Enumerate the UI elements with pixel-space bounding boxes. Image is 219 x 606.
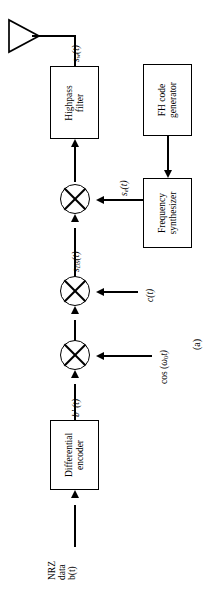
block-fh-code-generator-label: FH code generator xyxy=(157,82,178,118)
line-mixer-to-highpass xyxy=(74,147,76,182)
signal-carrier-post: t) xyxy=(159,350,169,356)
arrow-to-encoder-icon xyxy=(71,490,79,498)
signal-carrier-omega: ω xyxy=(159,359,169,366)
arrow-to-mixer1-icon xyxy=(96,196,104,204)
block-highpass-filter-label: Highpass filter xyxy=(64,85,85,120)
block-highpass-filter-line2: filter xyxy=(75,93,85,111)
signal-ds-sub: DS xyxy=(74,260,81,268)
line-carrier-to-mixer3 xyxy=(104,355,152,357)
block-differential-encoder: Differential encoder xyxy=(50,420,99,490)
signal-fh-arg: (t) xyxy=(119,180,129,189)
block-frequency-synthesizer-label: Frequency synthesizer xyxy=(157,192,178,235)
arrow-to-mixer1-vert-icon xyxy=(71,214,79,222)
signal-label-encoded-data: b' (t) xyxy=(72,399,82,417)
mixer-icon-carrier xyxy=(60,340,90,370)
line-input-to-encoder xyxy=(74,505,76,547)
arrow-to-mixer2-icon xyxy=(71,306,79,314)
arrow-carrier-to-mixer3-icon xyxy=(96,352,104,360)
line-fhcode-to-synth xyxy=(167,136,169,172)
signal-ds-arg: (t) xyxy=(71,251,81,260)
signal-output-arg: (t) xyxy=(71,45,81,54)
block-frequency-synthesizer-line1: Frequency xyxy=(157,193,167,233)
signal-encoded-arg: (t) xyxy=(71,399,81,408)
signal-encoded-base: b' xyxy=(71,410,81,417)
mixer-icon-ds xyxy=(60,276,90,306)
signal-carrier-pre: cos ( xyxy=(159,366,169,384)
block-differential-encoder-line2: encoder xyxy=(75,440,85,470)
signal-label-ds: sDS(t) xyxy=(72,251,82,272)
figure-caption: (a) xyxy=(192,339,203,350)
signal-fh-sub: e xyxy=(122,189,129,192)
arrow-to-mixer3-icon xyxy=(71,370,79,378)
signal-pn-base: c xyxy=(145,298,155,302)
signal-label-pn-code: c(t) xyxy=(146,289,156,302)
signal-pn-arg: (t) xyxy=(145,289,155,298)
block-fh-code-generator: FH code generator xyxy=(143,64,192,136)
figure-canvas: sw(t) Highpass filter FH code generator … xyxy=(0,0,219,606)
block-fh-code-generator-line2: generator xyxy=(168,82,178,118)
antenna-feed-line xyxy=(32,35,75,37)
block-fh-code-generator-line1: FH code xyxy=(157,84,167,116)
signal-label-carrier: cos (ω0t) xyxy=(160,350,170,384)
signal-ds-base: s xyxy=(71,268,81,272)
signal-output-base: s xyxy=(71,58,81,62)
arrow-to-highpass-icon xyxy=(71,139,79,147)
block-frequency-synthesizer: Frequency synthesizer xyxy=(143,178,192,248)
input-label: NRZ data b(t) xyxy=(48,561,78,580)
block-frequency-synthesizer-line2: synthesizer xyxy=(168,192,178,235)
block-differential-encoder-label: Differential encoder xyxy=(64,433,85,477)
signal-label-fh-carrier: se(t) xyxy=(120,180,130,196)
arrow-to-synth-icon xyxy=(164,170,172,178)
signal-fh-base: s xyxy=(119,192,129,196)
line-synth-to-mixer1 xyxy=(104,199,144,201)
arrow-code-to-mixer2-icon xyxy=(96,288,104,296)
signal-label-output: sw(t) xyxy=(72,45,82,62)
block-differential-encoder-line1: Differential xyxy=(64,433,74,477)
line-code-to-mixer2 xyxy=(104,291,138,293)
signal-output-sub: w xyxy=(74,54,81,58)
mixer-icon-fh xyxy=(60,184,90,214)
block-highpass-filter: Highpass filter xyxy=(50,66,99,139)
signal-carrier-sub: 0 xyxy=(162,356,169,359)
block-highpass-filter-line1: Highpass xyxy=(64,85,74,120)
input-label-line3: b(t) xyxy=(68,561,78,580)
